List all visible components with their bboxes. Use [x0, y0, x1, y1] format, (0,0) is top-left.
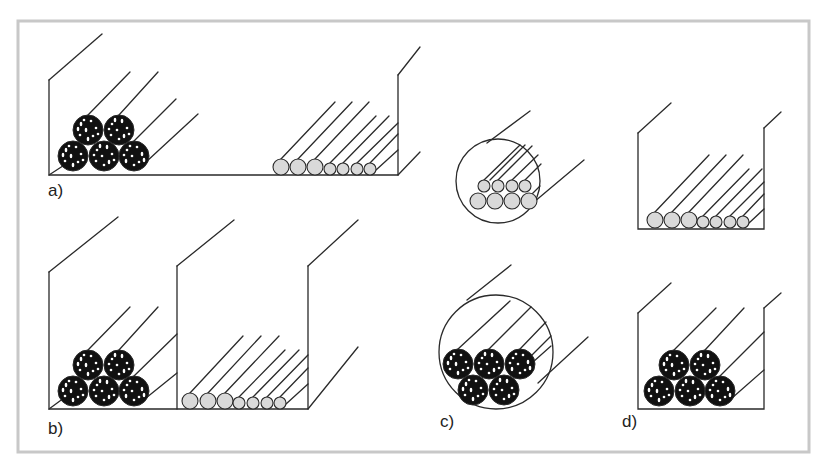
control-cable [247, 397, 259, 409]
power-cable [705, 376, 735, 406]
power-cable [644, 376, 674, 406]
power-cable [119, 141, 149, 171]
control-cable [478, 180, 490, 192]
panel-a [49, 34, 420, 175]
panel-b-light-cables [182, 393, 286, 409]
control-cable [504, 193, 520, 209]
power-cable [690, 350, 720, 380]
power-cable [675, 376, 705, 406]
power-cable [73, 115, 103, 145]
power-cable [58, 376, 88, 406]
panel-d-upper-cables [647, 212, 749, 228]
control-cable [200, 393, 216, 409]
control-cable [324, 163, 336, 175]
power-cable [119, 376, 149, 406]
control-cable [664, 212, 680, 228]
control-cable [364, 163, 376, 175]
control-cable [217, 393, 233, 409]
panel-label-d: d) [622, 412, 637, 431]
power-cable [458, 375, 488, 405]
control-cable [182, 393, 198, 409]
panel-a-dark-cables [58, 115, 149, 171]
control-cable [681, 212, 697, 228]
control-cable [647, 212, 663, 228]
power-cable [443, 349, 473, 379]
control-cable [290, 159, 306, 175]
panel-c [439, 111, 588, 409]
control-cable [274, 397, 286, 409]
power-cable [104, 350, 134, 380]
power-cable [505, 349, 535, 379]
panel-c-upper-cables [470, 180, 537, 209]
power-cable [58, 141, 88, 171]
panel-label-c: c) [440, 412, 454, 431]
control-cable [307, 159, 323, 175]
panel-d-upper-tray [638, 103, 781, 229]
power-cable [104, 115, 134, 145]
control-cable [710, 216, 722, 228]
control-cable [737, 216, 749, 228]
control-cable [724, 216, 736, 228]
panel-a-light-cables [273, 159, 376, 175]
control-cable [233, 397, 245, 409]
panel-d-lower-cables [644, 350, 735, 406]
control-cable [273, 159, 289, 175]
control-cable [470, 193, 486, 209]
power-cable [489, 375, 519, 405]
power-cable [73, 350, 103, 380]
power-cable [89, 141, 119, 171]
panel-label-a: a) [48, 181, 63, 200]
panel-b-dark-cables [58, 350, 149, 406]
power-cable [89, 376, 119, 406]
panel-b [49, 217, 358, 409]
control-cable [697, 216, 709, 228]
control-cable [351, 163, 363, 175]
panel-d [638, 103, 781, 409]
power-cable [474, 349, 504, 379]
panel-label-b: b) [48, 419, 63, 438]
cable-arrangement-diagram: a) b) c) d) [0, 0, 827, 467]
control-cable [506, 180, 518, 192]
control-cable [519, 180, 531, 192]
control-cable [337, 163, 349, 175]
panel-c-lower-cables [443, 349, 535, 405]
control-cable [261, 397, 273, 409]
control-cable [487, 193, 503, 209]
power-cable [659, 350, 689, 380]
control-cable [492, 180, 504, 192]
control-cable [521, 193, 537, 209]
